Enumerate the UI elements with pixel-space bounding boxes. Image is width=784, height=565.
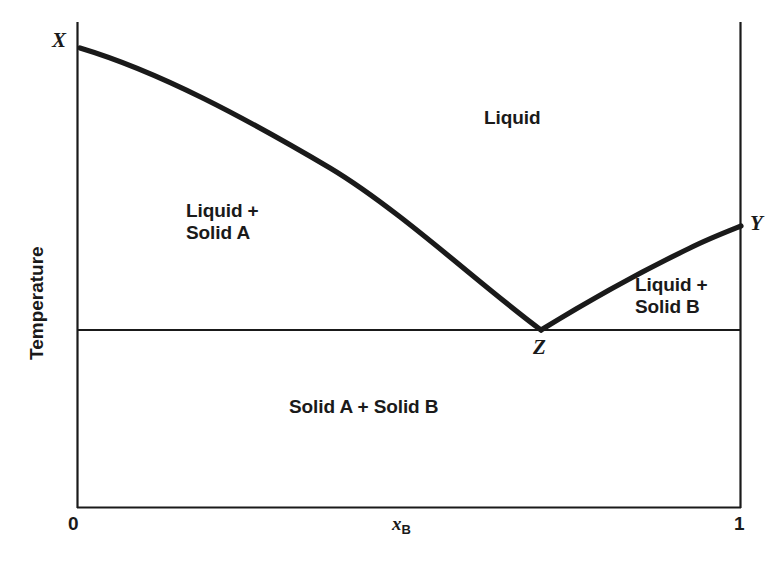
x-axis-tick-1: 1 [734,513,744,535]
region-label-liquid-solid-b: Liquid +Solid B [635,274,708,318]
region-label-solid-a-solid-b: Solid A + Solid B [289,396,438,418]
region-label-liquid-solid-b-line1: Liquid + [635,274,708,295]
liquidus-curve-a [80,48,541,330]
x-axis-title-subscript: B [401,522,410,537]
region-label-liquid-solid-b-line2: Solid B [635,296,700,317]
region-label-liquid: Liquid [484,107,540,129]
region-label-liquid-solid-a-line1: Liquid + [186,200,259,221]
phase-diagram-figure: X Y Z Liquid Liquid +Solid A Liquid +Sol… [0,0,784,565]
point-label-x: X [52,28,66,52]
point-label-z: Z [533,335,546,359]
x-axis-tick-0: 0 [68,513,78,535]
x-axis-title-symbol: x [392,513,401,534]
point-label-y: Y [750,211,763,235]
y-axis-title: Temperature [26,246,48,360]
region-label-liquid-solid-a-line2: Solid A [186,222,250,243]
region-label-liquid-solid-a: Liquid +Solid A [186,200,259,244]
x-axis-title: xB [392,513,411,537]
